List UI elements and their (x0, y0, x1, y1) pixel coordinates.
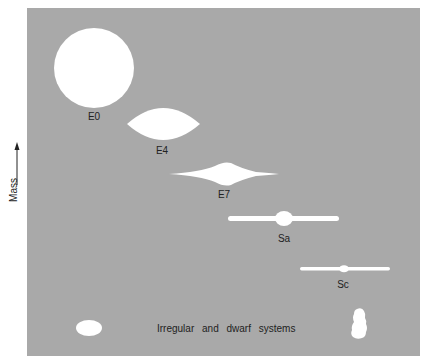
galaxy-e7-label: E7 (218, 189, 230, 200)
galaxy-shapes (0, 0, 427, 363)
irregular-caption: Irregular and dwarf systems (157, 323, 295, 334)
irregular-blob-shape (351, 308, 367, 338)
galaxy-sa-label: Sa (278, 233, 290, 244)
galaxy-e4-label: E4 (156, 145, 168, 156)
galaxy-e0-label: E0 (88, 111, 100, 122)
galaxy-sc-label: Sc (337, 279, 349, 290)
galaxy-e0-shape (54, 28, 134, 108)
galaxy-e7-shape (169, 162, 279, 185)
galaxy-sa-bulge (275, 211, 293, 226)
galaxy-e4-shape (127, 108, 200, 140)
galaxy-sc-bulge (339, 265, 349, 272)
irregular-ellipse-shape (76, 320, 102, 336)
